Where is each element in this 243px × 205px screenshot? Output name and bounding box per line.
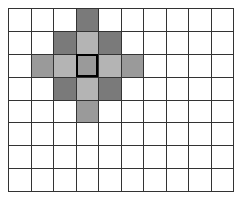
- grid-cell: [166, 122, 189, 145]
- grid-cell: [8, 77, 31, 100]
- grid-cell: [188, 54, 211, 77]
- grid-cell: [8, 31, 31, 54]
- grid-cell: [211, 8, 234, 31]
- grid-cell: [31, 168, 54, 191]
- grid-cell: [31, 77, 54, 100]
- grid-cell: [53, 77, 76, 100]
- grid-cell: [188, 100, 211, 123]
- grid-cell: [53, 122, 76, 145]
- grid-cell: [31, 122, 54, 145]
- grid-cell: [8, 54, 31, 77]
- grid-cell: [166, 31, 189, 54]
- grid-cell: [8, 100, 31, 123]
- grid-cell: [166, 8, 189, 31]
- grid-cell: [143, 54, 166, 77]
- grid-cell: [188, 168, 211, 191]
- grid-cell: [166, 145, 189, 168]
- grid-cell: [121, 100, 144, 123]
- grid-cell: [166, 168, 189, 191]
- grid-cell: [8, 122, 31, 145]
- grid-cell: [31, 145, 54, 168]
- grid-cell: [76, 8, 99, 31]
- grid-cell: [76, 31, 99, 54]
- grid-cell: [166, 77, 189, 100]
- grid-cell: [121, 168, 144, 191]
- grid-cell: [143, 100, 166, 123]
- grid-cell: [76, 77, 99, 100]
- grid-cell: [31, 8, 54, 31]
- grid-cell: [121, 54, 144, 77]
- grid-cell: [76, 168, 99, 191]
- grid-cell: [31, 54, 54, 77]
- grid-cell: [121, 77, 144, 100]
- grid-cell: [166, 100, 189, 123]
- grid-cell: [211, 100, 234, 123]
- grid-cell: [188, 8, 211, 31]
- grid-cell: [121, 122, 144, 145]
- grid-cell: [188, 31, 211, 54]
- grid-cell: [166, 54, 189, 77]
- grid-cell: [53, 54, 76, 77]
- grid-cell: [76, 122, 99, 145]
- grid-cell: [211, 54, 234, 77]
- grid-cell: [98, 77, 121, 100]
- grid-cell: [53, 31, 76, 54]
- grid-cell: [98, 54, 121, 77]
- grid-cell: [211, 122, 234, 145]
- grid-cell: [121, 145, 144, 168]
- grid-cell: [53, 145, 76, 168]
- grid-cell: [143, 122, 166, 145]
- center-cell: [76, 54, 99, 77]
- grid-cell: [211, 145, 234, 168]
- grid-cell: [188, 122, 211, 145]
- grid-cell: [211, 168, 234, 191]
- grid-cell: [8, 8, 31, 31]
- grid-cell: [8, 145, 31, 168]
- grid-cell: [143, 145, 166, 168]
- grid-cell: [31, 31, 54, 54]
- grid-cell: [8, 168, 31, 191]
- grid-cell: [143, 77, 166, 100]
- grid-cell: [121, 31, 144, 54]
- grid-cell: [98, 8, 121, 31]
- grid-cell: [211, 31, 234, 54]
- grid-cell: [31, 100, 54, 123]
- grid-cell: [98, 31, 121, 54]
- grid-cell: [76, 100, 99, 123]
- grid-cell: [98, 168, 121, 191]
- grid-cell: [188, 145, 211, 168]
- grid-cell: [143, 168, 166, 191]
- grid-cell: [143, 8, 166, 31]
- grid-cell: [53, 168, 76, 191]
- grid-cell: [188, 77, 211, 100]
- grid-cell: [211, 77, 234, 100]
- grid-cell: [53, 8, 76, 31]
- neighborhood-grid: [8, 8, 234, 192]
- grid-cell: [98, 122, 121, 145]
- grid-cell: [98, 145, 121, 168]
- grid-cell: [121, 8, 144, 31]
- grid-cell: [143, 31, 166, 54]
- grid-cell: [53, 100, 76, 123]
- grid-cell: [76, 145, 99, 168]
- grid-cell: [98, 100, 121, 123]
